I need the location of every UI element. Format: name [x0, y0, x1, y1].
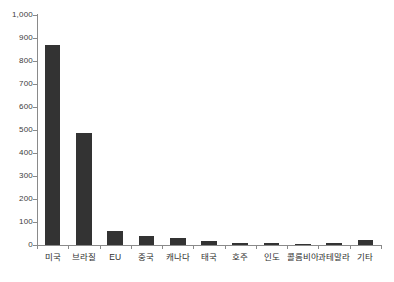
y-axis-tick — [33, 130, 38, 131]
x-axis-category-label: 콜롬비아 — [287, 252, 319, 262]
y-axis-tick — [33, 84, 38, 85]
bar — [139, 236, 155, 245]
y-axis-tick-label: 1,000 — [1, 11, 33, 19]
x-axis-tick — [68, 245, 69, 249]
bar — [264, 243, 280, 245]
x-axis-tick — [318, 245, 319, 249]
y-axis-tick — [33, 38, 38, 39]
y-axis-tick-label: 700 — [1, 80, 33, 88]
x-axis-tick — [256, 245, 257, 249]
bar — [45, 45, 61, 245]
x-axis-tick — [287, 245, 288, 249]
y-axis-tick-label: 0 — [1, 241, 33, 249]
bar — [201, 241, 217, 245]
y-axis-tick — [33, 107, 38, 108]
x-axis-category-label: 브라질 — [72, 252, 96, 262]
bar — [76, 133, 92, 245]
y-axis-tick-label: 300 — [1, 172, 33, 180]
x-axis-category-label: 기타 — [357, 252, 373, 262]
x-axis-category-label: 과테말라 — [318, 252, 350, 262]
bar — [326, 243, 342, 245]
x-axis-tick — [225, 245, 226, 249]
x-axis-tick — [193, 245, 194, 249]
x-axis-tick — [100, 245, 101, 249]
y-axis-tick-label: 200 — [1, 195, 33, 203]
x-axis-line — [37, 245, 381, 246]
bar — [358, 240, 374, 245]
x-axis-category-label: 중국 — [138, 252, 154, 262]
bar-chart: 1,0009008007006005004003002001000 미국브라질E… — [0, 0, 394, 282]
y-axis-tick — [33, 61, 38, 62]
x-axis-tick — [37, 245, 38, 249]
y-axis-tick-label: 400 — [1, 149, 33, 157]
bar — [232, 243, 248, 245]
y-axis-tick — [33, 199, 38, 200]
x-axis-category-label: 인도 — [264, 252, 280, 262]
bar — [107, 231, 123, 245]
y-axis-tick-label: 100 — [1, 218, 33, 226]
x-axis-tick — [381, 245, 382, 249]
x-axis-category-label: 태국 — [201, 252, 217, 262]
y-axis-tick-label: 900 — [1, 34, 33, 42]
y-axis-tick — [33, 153, 38, 154]
x-axis-tick — [162, 245, 163, 249]
y-axis-tick-label: 600 — [1, 103, 33, 111]
bar — [170, 238, 186, 245]
x-axis-tick — [350, 245, 351, 249]
y-axis-tick — [33, 176, 38, 177]
x-axis-category-label: EU — [109, 252, 121, 262]
x-axis-category-label: 미국 — [45, 252, 61, 262]
y-axis-tick — [33, 222, 38, 223]
y-axis-tick-label: 500 — [1, 126, 33, 134]
x-axis-category-label: 캐나다 — [166, 252, 190, 262]
x-axis-category-label: 호주 — [232, 252, 248, 262]
y-axis-tick — [33, 15, 38, 16]
x-axis-tick — [131, 245, 132, 249]
bar — [295, 244, 311, 245]
y-axis-tick-label: 800 — [1, 57, 33, 65]
